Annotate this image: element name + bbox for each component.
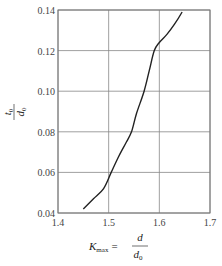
svg-text:t0: t0: [1, 108, 15, 115]
y-tick-label: 0.08: [38, 127, 56, 138]
y-tick-label: 0.04: [38, 208, 56, 219]
x-tick-label: 1.6: [153, 217, 166, 228]
y-axis-ticks: 0.040.060.080.100.120.14: [38, 5, 56, 219]
x-axis-label: Kmax= d d0: [88, 231, 148, 262]
svg-text:d0: d0: [14, 107, 28, 117]
x-tick-label: 1.5: [102, 217, 115, 228]
line-chart: 1.41.51.61.7 0.040.060.080.100.120.14 t0…: [0, 0, 222, 266]
svg-text:d: d: [137, 231, 143, 243]
x-tick-label: 1.7: [204, 217, 217, 228]
svg-text:d0: d0: [134, 248, 144, 262]
y-axis-label: t0 d0: [1, 104, 28, 120]
y-tick-label: 0.10: [38, 86, 56, 97]
x-axis-ticks: 1.41.51.61.7: [52, 217, 217, 228]
data-curve: [83, 12, 182, 209]
grid-lines: [58, 10, 210, 213]
svg-text:Kmax=: Kmax=: [88, 240, 118, 254]
y-tick-label: 0.12: [38, 46, 56, 57]
plot-frame: [58, 10, 210, 213]
y-tick-label: 0.14: [38, 5, 56, 16]
y-tick-label: 0.06: [38, 167, 56, 178]
